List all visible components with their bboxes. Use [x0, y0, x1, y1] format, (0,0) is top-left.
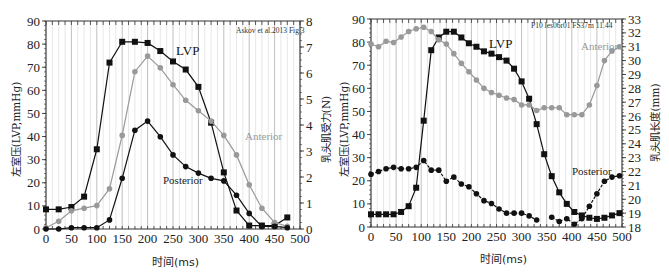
x-tick-label: 100 [87, 231, 107, 246]
circle-marker [572, 221, 578, 227]
y2-tick-label: 30 [628, 53, 641, 68]
square-marker [564, 201, 570, 207]
x-tick-label: 200 [138, 231, 158, 246]
circle-marker [541, 105, 547, 111]
square-marker [549, 173, 555, 179]
circle-marker [504, 95, 510, 101]
circle-marker [107, 217, 113, 223]
y-tick-label: 10 [352, 196, 365, 211]
square-marker [541, 151, 547, 157]
circle-marker [466, 184, 472, 190]
circle-marker [481, 86, 487, 92]
y-tick-label: 70 [352, 58, 365, 73]
y2-tick-label: 32 [628, 25, 641, 40]
circle-marker [579, 216, 585, 222]
circle-marker [519, 102, 525, 108]
square-marker [81, 194, 87, 200]
y2-tick-label: 25 [628, 122, 641, 137]
circle-marker [474, 191, 480, 197]
square-marker [406, 203, 412, 209]
square-marker [534, 121, 540, 127]
square-marker [488, 51, 494, 57]
circle-marker [170, 82, 176, 88]
y-tick-label: 40 [352, 127, 365, 142]
circle-marker [234, 192, 240, 198]
square-marker [458, 34, 464, 40]
y2-tick-label: 3 [306, 144, 313, 159]
chart-left: 0501001502002503003504004505000102030405… [27, 14, 313, 247]
circle-marker [391, 165, 397, 171]
x-tick-label: 150 [112, 231, 132, 246]
square-marker [383, 211, 389, 217]
x-tick-label: 50 [390, 229, 403, 244]
circle-marker [158, 65, 164, 71]
square-marker [586, 215, 592, 221]
square-marker [107, 60, 113, 66]
y-tick-label: 50 [27, 106, 40, 121]
circle-marker [421, 25, 427, 31]
circle-marker [451, 174, 457, 180]
circle-marker [221, 178, 227, 184]
y-tick-label: 60 [352, 81, 365, 96]
square-marker [609, 212, 615, 218]
circle-marker [259, 224, 265, 230]
square-marker [601, 215, 607, 221]
y2-tick-label: 23 [628, 150, 641, 165]
y2-tick-label: 29 [628, 67, 641, 82]
circle-marker [413, 165, 419, 171]
square-marker [481, 48, 487, 54]
square-marker [526, 96, 532, 102]
circle-marker [368, 172, 374, 178]
y-tick-label: 80 [27, 37, 40, 52]
circle-marker [496, 206, 502, 212]
square-marker [413, 185, 419, 191]
circle-marker [459, 181, 465, 187]
square-marker [221, 169, 227, 175]
circle-marker [459, 61, 465, 67]
x-tick-label: 300 [189, 231, 209, 246]
circle-marker [81, 205, 87, 211]
square-marker [556, 189, 562, 195]
circle-marker [572, 112, 578, 118]
circle-marker [406, 29, 412, 35]
circle-marker [94, 225, 100, 231]
circle-marker [69, 225, 75, 231]
circle-marker [496, 92, 502, 98]
square-marker [571, 209, 577, 215]
square-marker [451, 29, 457, 35]
circle-marker [170, 152, 176, 158]
circle-marker [196, 108, 202, 114]
circle-marker [564, 112, 570, 118]
y2-tick-label: 22 [628, 164, 641, 179]
circle-marker [556, 219, 562, 225]
circle-marker [145, 118, 151, 124]
y-tick-label: 10 [27, 198, 40, 213]
circle-marker [56, 226, 62, 232]
circle-marker [246, 182, 252, 188]
circle-marker [376, 169, 382, 175]
circle-marker [489, 90, 495, 96]
y-tick-label: 90 [352, 12, 365, 27]
circle-marker [183, 164, 189, 170]
x-tick-label: 450 [587, 229, 607, 244]
y2-tick-label: 21 [628, 178, 641, 193]
circle-marker [579, 112, 585, 118]
circle-marker [119, 133, 125, 139]
circle-marker [376, 44, 382, 50]
x-tick-label: 400 [239, 231, 259, 246]
x-tick-label: 0 [43, 231, 50, 246]
circle-marker [474, 77, 480, 83]
square-marker [119, 39, 125, 45]
y2-tick-label: 19 [628, 206, 641, 221]
circle-marker [511, 97, 517, 103]
y-tick-label: 60 [27, 83, 40, 98]
y2-tick-label: 8 [306, 14, 313, 29]
y-tick-label: 20 [352, 173, 365, 188]
circle-marker [145, 53, 151, 59]
circle-marker [526, 102, 532, 108]
y-tick-label: 80 [352, 35, 365, 50]
square-marker [170, 58, 176, 64]
circle-marker [406, 166, 412, 172]
square-marker [428, 47, 434, 53]
y-tick-label: 90 [27, 14, 40, 29]
